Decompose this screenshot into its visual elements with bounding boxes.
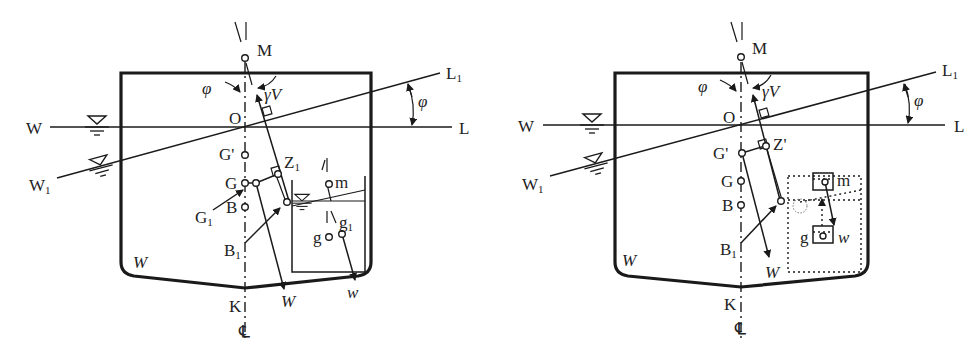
label-O: O <box>229 109 241 128</box>
label-W: W <box>518 117 535 136</box>
point-G-prime <box>739 150 746 157</box>
label-G-prime: G' <box>713 144 728 163</box>
centerline-top-tick <box>235 22 241 42</box>
point-B1 <box>284 199 291 206</box>
label-M: M <box>752 39 767 58</box>
right-angle-mark <box>262 106 272 116</box>
label-hull-W: W <box>133 253 149 272</box>
G-to-Z1-line <box>245 174 278 183</box>
label-G: G <box>225 174 237 193</box>
B1-arrow <box>741 206 776 243</box>
label-centerline: ℄ <box>734 319 746 338</box>
label-phi-top: φ <box>698 77 707 96</box>
m-tick <box>322 160 325 170</box>
label-phi-top: φ <box>202 79 211 98</box>
point-M <box>242 55 249 62</box>
label-gammaV: γV <box>762 82 782 101</box>
point-G-prime <box>242 152 249 159</box>
label-hull-W: W <box>622 251 638 270</box>
label-W: W <box>26 119 43 138</box>
weight-W-arrow <box>742 153 769 257</box>
label-K: K <box>724 295 737 314</box>
weight-w-arrow <box>342 234 355 280</box>
label-O: O <box>723 108 735 127</box>
label-L: L <box>954 117 964 136</box>
label-K: K <box>229 297 242 316</box>
label-m: m <box>335 173 348 192</box>
label-phi-heel: φ <box>914 91 923 110</box>
label-g: g <box>800 228 809 247</box>
point-B1 <box>778 198 785 205</box>
label-W1: W1 <box>522 175 544 195</box>
label-L1: L1 <box>942 61 958 81</box>
label-B: B <box>722 196 733 215</box>
point-G <box>738 178 745 185</box>
point-g <box>326 234 333 241</box>
heel-angle-arrow <box>408 84 412 97</box>
label-centerline: ℄ <box>238 322 250 341</box>
phi-arrow-left <box>225 82 240 92</box>
label-B: B <box>226 198 237 217</box>
label-Z1: Z1 <box>284 153 300 173</box>
point-m <box>822 179 828 185</box>
label-G1: G1 <box>195 208 213 228</box>
free-surface-blob <box>793 199 807 213</box>
label-L1: L1 <box>446 64 462 84</box>
Zp-connector <box>766 146 782 200</box>
right-angle-mark <box>759 108 769 118</box>
label-weight-w: w <box>838 228 850 247</box>
label-B1: B1 <box>720 240 737 260</box>
ship-stability-diagram: M O W L W1 L1 φ φ γV G' G G1 B B1 Z1 m g… <box>0 0 979 357</box>
label-phi-heel: φ <box>418 92 427 111</box>
label-G-prime: G' <box>219 145 234 164</box>
waterline-W1L1 <box>57 73 440 178</box>
point-B <box>242 204 249 211</box>
label-weight-W: W <box>765 263 781 282</box>
point-m <box>326 181 333 188</box>
label-g1: g1 <box>339 213 353 233</box>
B1-arrow <box>245 208 280 243</box>
waterline-symbol <box>85 116 109 135</box>
label-W1: W1 <box>29 176 51 196</box>
label-weight-W: W <box>281 292 297 311</box>
point-Z1 <box>275 171 282 178</box>
phi-arrow-left <box>720 80 736 91</box>
label-g: g <box>313 228 322 247</box>
waterline-W1L1 <box>550 72 936 176</box>
label-L: L <box>459 119 469 138</box>
label-G: G <box>721 172 733 191</box>
label-weight-w: w <box>347 283 359 302</box>
point-g <box>820 233 826 239</box>
label-gammaV: γV <box>264 85 284 104</box>
point-B <box>738 202 745 209</box>
waterline-symbol <box>580 114 604 133</box>
centerline-top-tick <box>731 22 737 42</box>
g1-tick <box>331 211 336 223</box>
figure-right: M O W L W1 L1 φ φ γV G' Z' G B B1 m g w … <box>518 22 964 342</box>
figure-left: M O W L W1 L1 φ φ γV G' G G1 B B1 Z1 m g… <box>26 22 469 342</box>
buoyancy-line <box>257 95 289 201</box>
point-Z-prime <box>763 143 770 150</box>
label-Z-prime: Z' <box>773 135 786 154</box>
point-M <box>738 54 745 61</box>
label-M: M <box>257 41 272 60</box>
label-m: m <box>837 171 850 190</box>
label-B1: B1 <box>224 241 241 261</box>
weight-W-arrow <box>256 183 284 289</box>
heel-angle-arc <box>408 84 413 125</box>
point-G <box>242 180 249 187</box>
point-G1 <box>253 180 260 187</box>
